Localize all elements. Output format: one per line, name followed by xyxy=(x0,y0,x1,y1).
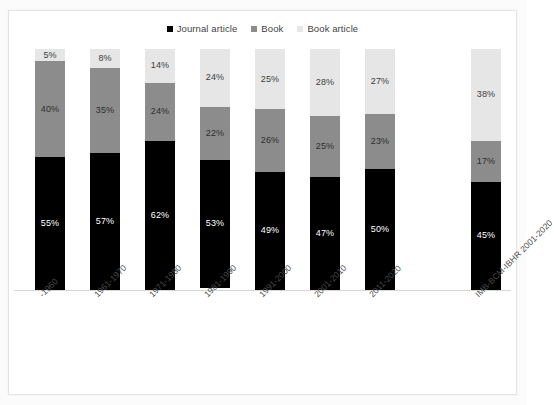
bar-segment-book-article[interactable]: 14% xyxy=(145,49,175,83)
bar-segment-value-label: 62% xyxy=(151,211,169,220)
bar-group[interactable]: 5%40%55% xyxy=(35,49,65,290)
legend-swatch-book-article xyxy=(297,26,303,32)
bar-segment-book-article[interactable]: 5% xyxy=(35,49,65,61)
bar-segment-value-label: 50% xyxy=(371,225,389,234)
bar-segment-book-article[interactable]: 25% xyxy=(255,49,285,109)
legend-label-journal-article: Journal article xyxy=(177,23,238,34)
legend-swatch-journal-article xyxy=(167,26,173,32)
chart-legend: Journal article Book Book article xyxy=(9,23,516,34)
bar-group[interactable]: 25%26%49% xyxy=(255,49,285,290)
bar-group[interactable]: 14%24%62% xyxy=(145,49,175,290)
bar-segment-value-label: 35% xyxy=(96,106,114,115)
bar-segment-journal-article[interactable]: 55% xyxy=(35,157,65,290)
legend-swatch-book xyxy=(251,26,257,32)
bar-group[interactable]: 38%17%45% xyxy=(471,49,501,290)
plot-area: 5%40%55%8%35%57%14%24%62%24%22%53%25%26%… xyxy=(14,49,511,290)
bar-segment-value-label: 28% xyxy=(316,78,334,87)
bar-segment-value-label: 47% xyxy=(316,229,334,238)
bar-segment-value-label: 17% xyxy=(477,157,495,166)
bar-group[interactable]: 28%25%47% xyxy=(310,49,340,290)
bar-segment-value-label: 24% xyxy=(151,107,169,116)
bar-group[interactable]: 8%35%57% xyxy=(90,49,120,290)
bar-segment-value-label: 38% xyxy=(477,90,495,99)
legend-item-journal-article: Journal article xyxy=(167,23,238,34)
bar-segment-book[interactable]: 35% xyxy=(90,68,120,152)
bar-segment-value-label: 24% xyxy=(206,73,224,82)
bar-segment-book-article[interactable]: 27% xyxy=(365,49,395,114)
bar-segment-value-label: 5% xyxy=(43,51,56,60)
page-frame: Journal article Book Book article 5%40%5… xyxy=(8,10,517,395)
bar-segment-value-label: 40% xyxy=(41,105,59,114)
bar-segment-book[interactable]: 17% xyxy=(471,141,501,182)
bar-segment-book-article[interactable]: 24% xyxy=(200,49,230,107)
bar-segment-value-label: 23% xyxy=(371,137,389,146)
bar-segment-book[interactable]: 22% xyxy=(200,107,230,160)
bar-segment-book[interactable]: 40% xyxy=(35,61,65,157)
bar-segment-book[interactable]: 25% xyxy=(310,116,340,176)
bar-segment-value-label: 14% xyxy=(151,61,169,70)
bar-segment-value-label: 55% xyxy=(41,219,59,228)
bar-segment-book[interactable]: 26% xyxy=(255,109,285,172)
bar-segment-value-label: 45% xyxy=(477,231,495,240)
legend-item-book: Book xyxy=(251,23,283,34)
bar-segment-book-article[interactable]: 38% xyxy=(471,49,501,141)
legend-label-book-article: Book article xyxy=(307,23,358,34)
bar-segment-value-label: 22% xyxy=(206,129,224,138)
bar-segment-value-label: 49% xyxy=(261,226,279,235)
bar-segment-value-label: 57% xyxy=(96,217,114,226)
bar-segment-value-label: 25% xyxy=(316,142,334,151)
legend-item-book-article: Book article xyxy=(297,23,358,34)
bar-segment-value-label: 25% xyxy=(261,75,279,84)
legend-label-book: Book xyxy=(261,23,283,34)
bar-segment-value-label: 8% xyxy=(98,54,111,63)
bar-segment-book[interactable]: 24% xyxy=(145,83,175,141)
bar-segment-book-article[interactable]: 28% xyxy=(310,49,340,116)
bar-segment-value-label: 53% xyxy=(206,219,224,228)
bar-segment-book[interactable]: 23% xyxy=(365,114,395,169)
bar-segment-book-article[interactable]: 8% xyxy=(90,49,120,68)
bar-segment-value-label: 27% xyxy=(371,77,389,86)
x-axis-tick-labels: -19601961-19701971-19801981-19901991-200… xyxy=(14,292,511,392)
bar-segment-value-label: 26% xyxy=(261,136,279,145)
bar-group[interactable]: 24%22%53% xyxy=(200,49,230,290)
bar-group[interactable]: 27%23%50% xyxy=(365,49,395,290)
